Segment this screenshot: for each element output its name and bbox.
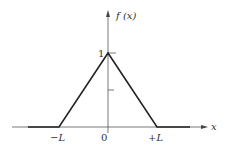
tick-label-one: 1 xyxy=(98,48,104,59)
tick-label-zero: 0 xyxy=(101,132,107,143)
y-axis-arrow-icon xyxy=(106,10,110,17)
triangle-function-plot: f (x) x 1 −L 0 +L xyxy=(0,0,228,146)
x-axis-label: x xyxy=(211,121,217,132)
tick-label-pos-L: +L xyxy=(148,132,163,143)
y-axis-label: f (x) xyxy=(115,10,136,21)
x-axis-arrow-icon xyxy=(201,125,208,129)
tick-label-neg-L: −L xyxy=(50,132,65,143)
